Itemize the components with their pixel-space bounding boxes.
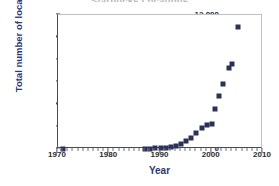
x-tick-label: 2000	[191, 150, 231, 159]
x-tick-mark-minor	[231, 148, 232, 151]
x-tick-mark-minor	[128, 148, 129, 151]
data-point	[236, 25, 241, 30]
plot-area	[57, 14, 262, 148]
data-point	[194, 131, 199, 136]
x-tick-mark-minor	[82, 148, 83, 151]
y-axis-title: Total number of locations	[13, 0, 24, 95]
x-tick-mark-minor	[180, 148, 181, 151]
x-tick-label: 2010	[242, 150, 279, 159]
data-point	[212, 107, 217, 112]
x-tick-label: 1990	[140, 150, 180, 159]
chart-title: Starbucks Locations	[0, 0, 279, 2]
data-point	[221, 82, 226, 87]
data-series-locations	[58, 15, 261, 147]
data-point	[189, 135, 194, 140]
x-tick-label: 1980	[88, 150, 128, 159]
x-axis-title: Year	[57, 165, 262, 176]
chart-figure: Starbucks Locations Total number of loca…	[0, 0, 279, 186]
x-tick-mark-minor	[133, 148, 134, 151]
x-tick-mark-minor	[236, 148, 237, 151]
data-point	[226, 66, 231, 71]
x-tick-mark-minor	[185, 148, 186, 151]
x-tick-mark-minor	[77, 148, 78, 151]
x-tick-label: 1970	[37, 150, 77, 159]
data-point	[216, 93, 221, 98]
data-point	[229, 61, 234, 66]
data-point	[209, 121, 214, 126]
